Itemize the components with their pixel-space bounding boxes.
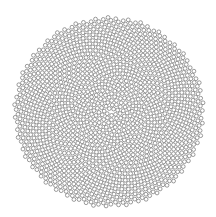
seed-circle	[45, 164, 49, 168]
seed-circle	[140, 24, 144, 28]
seed-circle	[28, 126, 32, 130]
seed-circle	[92, 109, 96, 113]
seed-circle	[91, 64, 95, 68]
seed-circle	[126, 181, 130, 185]
seed-circle	[131, 98, 135, 102]
seed-circle	[152, 90, 156, 94]
seed-circle	[158, 55, 162, 59]
seed-circle	[133, 95, 137, 99]
seed-circle	[158, 173, 162, 177]
seed-circle	[176, 106, 180, 110]
seed-circle	[122, 128, 126, 132]
seed-circle	[129, 61, 133, 65]
seed-circle	[62, 177, 66, 181]
seed-circle	[157, 182, 161, 186]
seed-circle	[187, 81, 191, 85]
seed-circle	[142, 128, 146, 132]
seed-circle	[45, 150, 49, 154]
seed-circle	[69, 121, 73, 125]
seed-circle	[166, 115, 170, 119]
seed-circle	[66, 85, 70, 89]
seed-circle	[148, 140, 152, 144]
seed-circle	[63, 186, 67, 190]
seed-circle	[86, 125, 90, 129]
seed-circle	[161, 183, 165, 187]
seed-circle	[72, 142, 76, 146]
seed-circle	[58, 72, 62, 76]
seed-circle	[66, 53, 70, 57]
seed-circle	[88, 155, 92, 159]
seed-circle	[91, 164, 95, 168]
seed-circle	[121, 120, 125, 124]
seed-circle	[172, 179, 176, 183]
seed-circle	[145, 178, 149, 182]
seed-circle	[63, 137, 67, 141]
seed-circle	[106, 176, 110, 180]
seed-circle	[28, 98, 32, 102]
seed-circle	[188, 88, 192, 92]
seed-circle	[35, 104, 39, 108]
seed-circle	[54, 130, 58, 134]
seed-circle	[121, 55, 125, 59]
seed-circle	[45, 71, 49, 75]
seed-circle	[63, 181, 67, 185]
seed-circle	[135, 144, 139, 148]
seed-circle	[158, 127, 162, 131]
seed-circle	[46, 160, 50, 164]
seed-circle	[60, 37, 64, 41]
seed-circle	[148, 62, 152, 66]
seed-circle	[112, 39, 116, 43]
seed-circle	[163, 156, 167, 160]
seed-circle	[72, 182, 76, 186]
seed-circle	[17, 83, 21, 87]
seed-circle	[170, 113, 174, 117]
seed-circle	[165, 75, 169, 79]
seed-circle	[162, 60, 166, 64]
seed-circle	[110, 113, 114, 117]
seed-circle	[191, 153, 195, 157]
seed-circle	[54, 67, 58, 71]
seed-circle	[153, 72, 157, 76]
seed-circle	[131, 25, 135, 29]
seed-circle	[180, 113, 184, 117]
seed-circle	[50, 48, 54, 52]
seed-circle	[43, 101, 47, 105]
seed-circle	[184, 150, 188, 154]
seed-circle	[67, 169, 71, 173]
seed-circle	[125, 63, 129, 67]
seed-circle	[78, 24, 82, 28]
seed-circle	[183, 131, 187, 135]
seed-circle	[131, 149, 135, 153]
seed-circle	[178, 128, 182, 132]
seed-circle	[167, 97, 171, 101]
seed-circle	[149, 148, 153, 152]
seed-circle	[51, 123, 55, 127]
seed-circle	[129, 56, 133, 60]
seed-circle	[134, 107, 138, 111]
seed-circle	[115, 145, 119, 149]
seed-circle	[58, 50, 62, 54]
seed-circle	[143, 182, 147, 186]
seed-circle	[67, 165, 71, 169]
seed-circle	[85, 152, 89, 156]
seed-circle	[85, 120, 89, 124]
seed-circle	[23, 155, 27, 159]
seed-circle	[127, 73, 131, 77]
seed-circle	[23, 143, 27, 147]
seed-circle	[71, 51, 75, 55]
seed-circle	[21, 86, 25, 90]
seed-circle	[74, 32, 78, 36]
seed-circle	[126, 139, 130, 143]
seed-circle	[31, 96, 35, 100]
seed-circle	[113, 125, 117, 129]
seed-circle	[163, 35, 167, 39]
seed-circle	[152, 62, 156, 66]
seed-circle	[116, 139, 120, 143]
seed-circle	[146, 25, 150, 29]
seed-circle	[147, 28, 151, 32]
seed-circle	[64, 57, 68, 61]
seed-circle	[153, 58, 157, 62]
seed-circle	[122, 124, 126, 128]
seed-circle	[74, 22, 78, 26]
seed-circle	[88, 59, 92, 63]
